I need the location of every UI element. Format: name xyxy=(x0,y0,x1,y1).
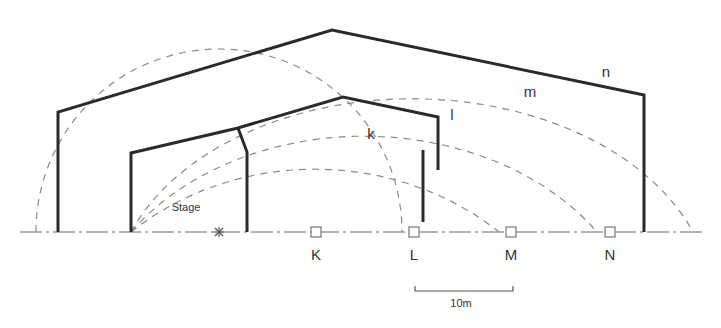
outer-hall-outline xyxy=(58,30,644,232)
arc-label-l: l xyxy=(450,106,453,123)
receiver-m-icon xyxy=(506,227,516,237)
receiver-n-icon xyxy=(605,227,615,237)
arc-label-n: n xyxy=(602,63,610,80)
receiver-label-n: N xyxy=(605,246,616,263)
stage-label: Stage xyxy=(172,201,201,213)
arc-m xyxy=(131,136,597,232)
arc-group xyxy=(36,49,693,232)
sound-source-icon xyxy=(214,227,224,237)
arc-n xyxy=(131,99,693,232)
stage-back-wall xyxy=(238,128,247,232)
arc-label-m: m xyxy=(524,83,537,100)
arc-label-k: k xyxy=(367,125,375,142)
arc-k xyxy=(36,49,402,232)
receiver-label-l: L xyxy=(410,246,418,263)
scale-bar xyxy=(415,286,513,291)
receiver-label-k: K xyxy=(311,246,321,263)
scale-bar-label: 10m xyxy=(450,297,471,309)
receiver-label-m: M xyxy=(505,246,518,263)
receiver-l-icon xyxy=(409,227,419,237)
acoustic-section-diagram: K L M N k l m n Stage 10m xyxy=(0,0,721,328)
receiver-k-icon xyxy=(311,227,321,237)
